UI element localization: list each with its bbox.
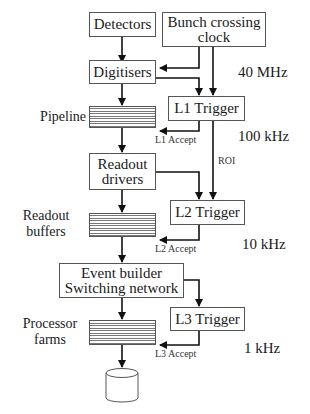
readout-buffers-label-1: Readout (16, 208, 76, 224)
l2-trigger-box: L2 Trigger (170, 200, 245, 225)
readout-drivers-box: Readout drivers (89, 153, 156, 190)
bunch-crossing-label-1: Bunch crossing (168, 15, 261, 30)
readout-buffers-stack (89, 213, 156, 237)
detectors-label: Detectors (94, 17, 151, 32)
roi-label: ROI (218, 155, 235, 166)
event-builder-label-1: Event builder (81, 266, 162, 281)
storage-cylinder-icon (106, 369, 138, 403)
readout-drivers-label-2: drivers (102, 172, 144, 187)
detectors-box: Detectors (89, 12, 156, 37)
readout-drivers-label-1: Readout (98, 157, 148, 172)
l1-trigger-box: L1 Trigger (168, 96, 245, 121)
readout-buffers-label-2: buffers (16, 224, 76, 240)
event-builder-box: Event builder Switching network (59, 263, 184, 298)
l3-trigger-label: L3 Trigger (175, 312, 240, 327)
bunch-crossing-clock-box: Bunch crossing clock (162, 12, 266, 47)
processor-farms-label: Processor farms (16, 316, 84, 348)
l2-trigger-label: L2 Trigger (175, 205, 240, 220)
rate-10khz: 10 kHz (242, 236, 286, 253)
l3-trigger-box: L3 Trigger (170, 307, 245, 331)
l2-accept-label: L2 Accept (155, 243, 196, 254)
l1-trigger-label: L1 Trigger (174, 101, 239, 116)
processor-farms-stack (89, 320, 156, 345)
rate-40mhz: 40 MHz (238, 64, 288, 81)
l3-accept-label: L3 Accept (155, 348, 196, 359)
l1-accept-label: L1 Accept (155, 134, 196, 145)
processor-farms-label-2: farms (16, 332, 84, 348)
bunch-crossing-label-2: clock (198, 30, 230, 45)
pipeline-label: Pipeline (20, 109, 86, 125)
digitisers-box: Digitisers (89, 60, 156, 84)
readout-buffers-label: Readout buffers (16, 208, 76, 240)
processor-farms-label-1: Processor (16, 316, 84, 332)
digitisers-label: Digitisers (93, 65, 151, 80)
rate-1khz: 1 kHz (244, 340, 280, 357)
pipeline-stack (89, 106, 156, 128)
event-builder-label-2: Switching network (65, 281, 179, 296)
rate-100khz: 100 kHz (238, 128, 289, 145)
